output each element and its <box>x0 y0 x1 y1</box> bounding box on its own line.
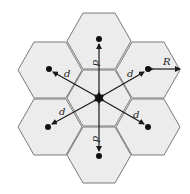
dot-upper-left <box>46 66 52 72</box>
dot-upper-right <box>145 66 151 72</box>
dot-top <box>96 36 102 42</box>
label-radius: R <box>162 56 171 67</box>
hexagonal-cell-diagram: d d d d d d R <box>0 0 190 194</box>
dot-center <box>96 95 103 102</box>
label-d-upper-left: d <box>64 68 70 79</box>
dot-lower-left <box>45 124 51 130</box>
label-d-lower-right: d <box>133 109 139 120</box>
dot-lower-right <box>145 124 151 130</box>
label-d-bottom: d <box>91 136 102 142</box>
label-d-top: d <box>91 60 102 66</box>
label-d-lower-left: d <box>59 106 65 117</box>
label-d-upper-right: d <box>127 68 133 79</box>
dot-bottom <box>96 153 102 159</box>
